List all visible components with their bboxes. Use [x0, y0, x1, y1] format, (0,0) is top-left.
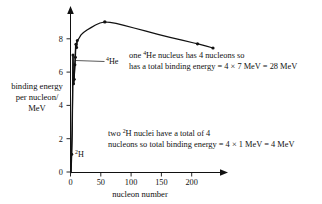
marker-li7 — [73, 78, 76, 81]
binding-energy-chart: 0 2 4 6 8 0 50 100 150 200 nucleon numbe… — [0, 0, 322, 204]
marker-n14 — [75, 46, 78, 49]
marker-c12 — [74, 43, 77, 46]
chart-figure: 0 2 4 6 8 0 50 100 150 200 nucleon numbe… — [0, 0, 322, 204]
annotation-deuterium: two 2H nuclei have a total of 4 nucleons… — [108, 128, 294, 149]
deuterium-note-line1-prefix: two — [108, 129, 123, 138]
y-tick-label-8: 8 — [59, 35, 63, 44]
svg-text:4He: 4He — [106, 56, 119, 66]
helium-note-line1: one 4He nucleus has 4 nucleons so — [129, 50, 244, 60]
deuterium-note-line2: nucleons so total binding energy = 4 × 1… — [108, 140, 294, 149]
x-tick-label-0: 0 — [68, 178, 72, 187]
marker-o16 — [76, 39, 79, 42]
helium-note-line1-prefix: one — [129, 51, 143, 60]
he4-element: He — [109, 57, 119, 66]
deuterium-note-line1: two 2H nuclei have a total of 4 — [108, 128, 211, 138]
binding-energy-curve — [71, 22, 213, 173]
x-axis-arrowhead — [220, 169, 228, 175]
annotation-helium: one 4He nucleus has 4 nucleons so has a … — [129, 50, 297, 71]
marker-b11 — [74, 56, 77, 59]
x-tick-label-150: 150 — [155, 178, 167, 187]
x-tick-label-50: 50 — [97, 178, 105, 187]
y-axis-arrowhead — [67, 6, 74, 14]
marker-li6 — [72, 82, 75, 85]
x-axis: 0 50 100 150 200 nucleon number — [68, 169, 228, 199]
y-tick-label-6: 6 — [59, 68, 63, 77]
marker-he4 — [72, 53, 75, 56]
x-tick-label-100: 100 — [125, 178, 137, 187]
helium-note-line2: has a total binding energy = 4 × 7 MeV =… — [129, 62, 297, 71]
marker-h2 — [70, 153, 73, 156]
svg-text:2H: 2H — [75, 149, 84, 159]
y-axis-title: binding energy per nucleon/ MeV — [11, 81, 63, 113]
marker-bi209 — [196, 42, 199, 45]
h2-element: H — [78, 150, 84, 159]
y-axis-title-line1: binding energy — [11, 81, 63, 91]
he4-leader-line — [76, 61, 105, 62]
y-tick-label-4: 4 — [59, 101, 64, 110]
helium-note-line1-rest: He nucleus has 4 nucleons so — [146, 51, 244, 60]
point-label-h2: 2H — [75, 149, 84, 159]
point-label-he4: 4He — [76, 56, 119, 66]
x-tick-label-200: 200 — [185, 178, 197, 187]
marker-fe56 — [103, 20, 106, 23]
marker-u238 — [211, 46, 214, 49]
marker-be9 — [73, 63, 76, 66]
x-axis-title: nucleon number — [112, 189, 168, 199]
data-curve-group — [71, 22, 213, 173]
y-tick-label-2: 2 — [59, 135, 63, 144]
y-tick-label-0: 0 — [59, 168, 63, 177]
deuterium-note-line1-rest: H nuclei have a total of 4 — [126, 129, 211, 138]
y-axis-title-line3: MeV — [28, 103, 46, 113]
y-axis-title-line2: per nucleon/ — [16, 92, 59, 102]
